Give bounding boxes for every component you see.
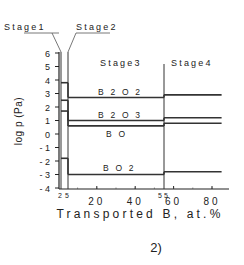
x-tick-label: 5: [65, 192, 71, 199]
y-tick-label: - 2: [39, 157, 50, 167]
stage4-label: Stage4: [171, 58, 213, 68]
series-label-bo: B O: [106, 129, 127, 139]
series-label-b2o2: B 2 O 2: [98, 87, 142, 97]
stage3-label: Stage3: [100, 58, 142, 68]
x-axis-title: Transported B, at.%: [56, 207, 223, 221]
y-tick-label: 0: [45, 130, 50, 140]
x-tick-label: 20: [88, 196, 105, 207]
x-tick-label: 60: [165, 196, 182, 207]
y-tick-label: 4: [45, 76, 50, 86]
y-tick-label: - 3: [39, 170, 50, 180]
stage2-label: Stage2: [76, 22, 118, 32]
series-label-bo2: B O 2: [103, 163, 136, 173]
x-tick-label: 80: [203, 196, 220, 207]
x-tick-label: 40: [127, 196, 144, 207]
stage1-callout-diag: [52, 33, 61, 52]
x-tick-label: 2: [58, 192, 64, 199]
figure-label: 2): [150, 240, 162, 255]
y-tick-label: 1: [45, 116, 50, 126]
y-tick-label: 3: [45, 89, 50, 99]
series-label-b2o3: B 2 O 3: [98, 110, 142, 120]
y-tick-label: 5: [45, 62, 50, 72]
y-axis-title: log p (Pa): [13, 97, 24, 145]
y-tick-label: - 1: [39, 143, 50, 153]
chart: 6543210- 1- 2- 3- 4 252040556080 Stage1 …: [0, 0, 244, 265]
stage1-label: Stage1: [4, 22, 46, 32]
y-tick-label: - 4: [39, 184, 50, 194]
y-tick-label: 2: [45, 103, 50, 113]
y-ticks: 6543210- 1- 2- 3- 4: [39, 49, 59, 194]
stage2-callout-diag: [68, 33, 76, 52]
y-tick-label: 6: [45, 49, 50, 59]
